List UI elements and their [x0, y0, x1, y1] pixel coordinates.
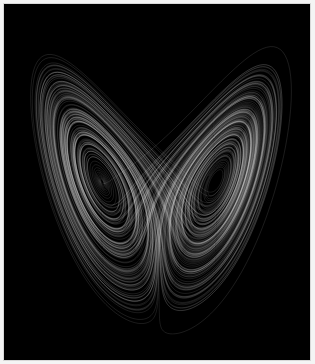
lorenz-attractor-image: [3, 3, 311, 361]
lorenz-attractor-canvas: [4, 4, 310, 360]
